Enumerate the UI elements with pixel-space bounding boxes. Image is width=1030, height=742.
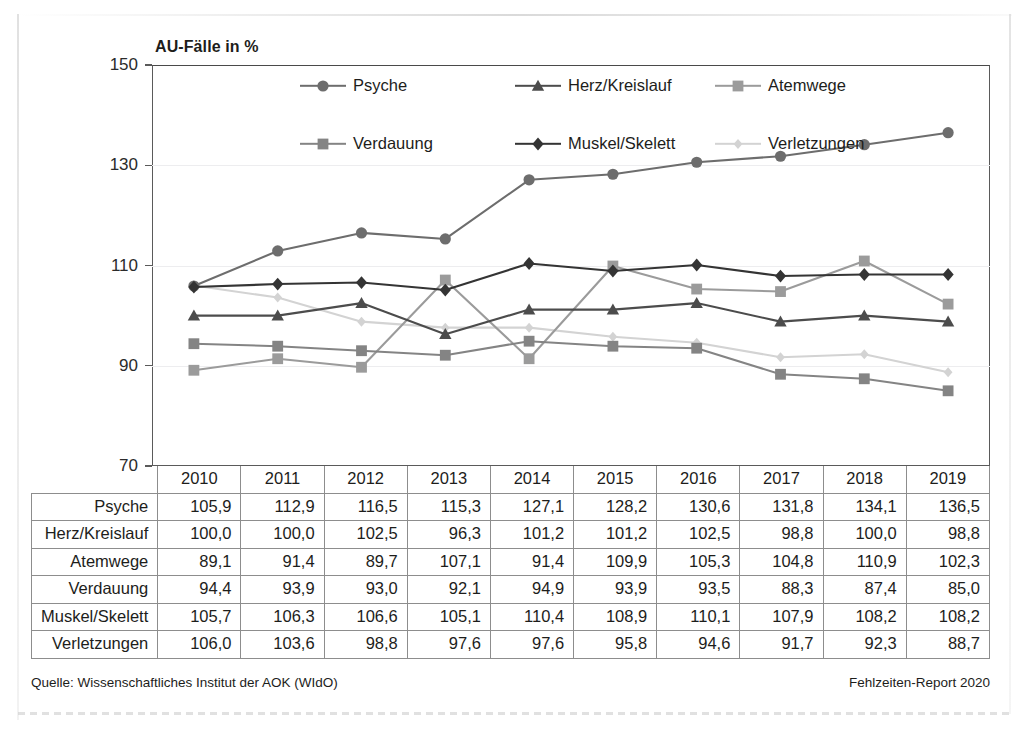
legend-item-psyche[interactable]: Psyche: [300, 76, 407, 95]
table-cell: 91,4: [490, 548, 573, 576]
legend-marker-square-icon: [300, 136, 346, 152]
table-cell: 109,9: [574, 548, 657, 576]
chart-legend: PsycheHerz/KreislaufAtemwegeVerdauungMus…: [300, 76, 860, 134]
table-cell: 128,2: [574, 493, 657, 521]
table-cell: 93,0: [324, 576, 407, 604]
data-table: 2010201120122013201420152016201720182019…: [31, 466, 990, 659]
legend-row: VerdauungMuskel/SkelettVerletzungen: [300, 105, 860, 134]
table-cell: 115,3: [407, 493, 490, 521]
legend-item-herz-kreislauf[interactable]: Herz/Kreislauf: [515, 76, 672, 95]
figure-footer: Quelle: Wissenschaftliches Institut der …: [31, 675, 990, 690]
table-body: Psyche105,9112,9116,5115,3127,1128,2130,…: [32, 493, 990, 658]
table-cell: 107,9: [740, 603, 823, 631]
table-cell: 87,4: [823, 576, 906, 604]
chart-title: AU-Fälle in %: [155, 38, 259, 56]
table-cell: 96,3: [407, 521, 490, 549]
table-cell: 101,2: [574, 521, 657, 549]
table-col-header-2015: 2015: [574, 466, 657, 493]
table-row-label: Muskel/Skelett: [32, 603, 158, 631]
table-col-header-2016: 2016: [657, 466, 740, 493]
table-col-header-2012: 2012: [324, 466, 407, 493]
table-col-header-2014: 2014: [490, 466, 573, 493]
table-cell: 110,4: [490, 603, 573, 631]
table-cell: 108,2: [906, 603, 989, 631]
legend-marker-circle-icon: [300, 78, 346, 94]
table-cell: 98,8: [324, 631, 407, 659]
y-tick-label-130: 130: [90, 155, 138, 175]
table-cell: 101,2: [490, 521, 573, 549]
table-cell: 131,8: [740, 493, 823, 521]
table-col-header-2010: 2010: [158, 466, 241, 493]
table-cell: 127,1: [490, 493, 573, 521]
table-cell: 116,5: [324, 493, 407, 521]
table-cell: 93,9: [574, 576, 657, 604]
table-cell: 97,6: [490, 631, 573, 659]
table-row-label: Atemwege: [32, 548, 158, 576]
table-cell: 98,8: [906, 521, 989, 549]
series-verdauung: [189, 336, 954, 396]
table-cell: 105,3: [657, 548, 740, 576]
legend-marker-triangle-icon: [515, 78, 561, 94]
y-tick-mark-90: [145, 365, 152, 366]
table-cell: 107,1: [407, 548, 490, 576]
table-cell: 100,0: [158, 521, 241, 549]
legend-item-atemwege[interactable]: Atemwege: [715, 76, 846, 95]
table-cell: 94,4: [158, 576, 241, 604]
legend-label: Muskel/Skelett: [568, 134, 675, 153]
table-row: Atemwege89,191,489,7107,191,4109,9105,31…: [32, 548, 990, 576]
series-muskel-skelett: [188, 257, 953, 296]
table-cell: 104,8: [740, 548, 823, 576]
legend-item-muskel-skelett[interactable]: Muskel/Skelett: [515, 134, 675, 153]
table-cell: 112,9: [241, 493, 324, 521]
table-row-label: Verdauung: [32, 576, 158, 604]
table-cell: 110,1: [657, 603, 740, 631]
chart-figure: AU-Fälle in % 7090110130150 PsycheHerz/K…: [0, 0, 1030, 742]
table-cell: 108,9: [574, 603, 657, 631]
y-tick-mark-110: [145, 265, 152, 266]
table-cell: 88,7: [906, 631, 989, 659]
report-note: Fehlzeiten-Report 2020: [849, 675, 990, 690]
table-row-label: Verletzungen: [32, 631, 158, 659]
legend-item-verletzungen[interactable]: Verletzungen: [715, 134, 864, 153]
table-cell: 105,7: [158, 603, 241, 631]
table-cell: 136,5: [906, 493, 989, 521]
table-row: Verletzungen106,0103,698,897,697,695,894…: [32, 631, 990, 659]
y-tick-mark-130: [145, 165, 152, 166]
table-cell: 102,3: [906, 548, 989, 576]
y-tick-label-110: 110: [90, 256, 138, 276]
table-row-label: Psyche: [32, 493, 158, 521]
table-cell: 105,9: [158, 493, 241, 521]
table-col-header-2013: 2013: [407, 466, 490, 493]
table-cell: 106,0: [158, 631, 241, 659]
table-row: Verdauung94,493,993,092,194,993,993,588,…: [32, 576, 990, 604]
legend-marker-small-diamond-icon: [715, 136, 761, 152]
table-cell: 106,6: [324, 603, 407, 631]
table-cell: 110,9: [823, 548, 906, 576]
table-cell: 130,6: [657, 493, 740, 521]
table-row: Muskel/Skelett105,7106,3106,6105,1110,41…: [32, 603, 990, 631]
table-cell: 91,7: [740, 631, 823, 659]
table-cell: 102,5: [324, 521, 407, 549]
table-cell: 106,3: [241, 603, 324, 631]
table-cell: 100,0: [823, 521, 906, 549]
table-cell: 98,8: [740, 521, 823, 549]
table-row-label: Herz/Kreislauf: [32, 521, 158, 549]
table-cell: 93,9: [241, 576, 324, 604]
legend-item-verdauung[interactable]: Verdauung: [300, 134, 433, 153]
table-cell: 103,6: [241, 631, 324, 659]
legend-label: Herz/Kreislauf: [568, 76, 672, 95]
series-atemwege: [189, 256, 954, 376]
table-cell: 91,4: [241, 548, 324, 576]
table-row: Psyche105,9112,9116,5115,3127,1128,2130,…: [32, 493, 990, 521]
legend-marker-diamond-icon: [515, 136, 561, 152]
legend-marker-square-icon: [715, 78, 761, 94]
table-cell: 88,3: [740, 576, 823, 604]
table-cell: 85,0: [906, 576, 989, 604]
table-cell: 89,1: [158, 548, 241, 576]
table-cell: 100,0: [241, 521, 324, 549]
legend-label: Verdauung: [353, 134, 433, 153]
table-col-header-2011: 2011: [241, 466, 324, 493]
table-cell: 108,2: [823, 603, 906, 631]
y-tick-mark-150: [145, 64, 152, 65]
series-verletzungen: [190, 281, 953, 378]
